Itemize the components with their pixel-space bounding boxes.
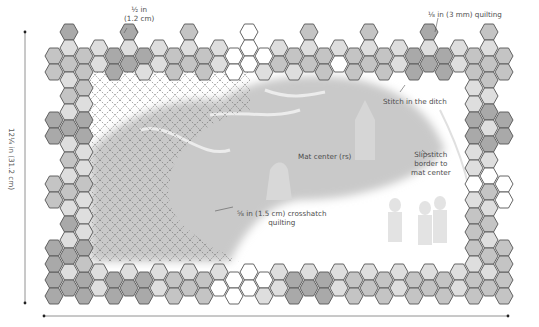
hexagon-patch	[150, 264, 168, 280]
hexagon-patch	[465, 96, 483, 112]
hexagon-patch	[240, 56, 258, 72]
crosshatch-line-2: quilting	[237, 218, 327, 227]
hexagon-patch	[120, 280, 138, 296]
hexagon-patch	[495, 176, 513, 192]
hexagon-patch	[195, 288, 213, 304]
height-dimension-label: 12¼ in (31.2 cm)	[7, 128, 16, 190]
hexagon-patch	[75, 112, 93, 128]
hexagon-patch	[75, 256, 93, 272]
hexagon-patch	[420, 280, 438, 296]
hexagon-patch	[120, 56, 138, 72]
hexagon-patch	[465, 288, 483, 304]
hexagon-patch	[135, 288, 153, 304]
hexagon-patch	[345, 64, 363, 80]
hexagon-patch	[360, 280, 378, 296]
hexagon-patch	[465, 80, 483, 96]
hexagon-patch	[210, 40, 228, 56]
hexagon-patch	[75, 208, 93, 224]
hexagon-patch	[345, 288, 363, 304]
hex-size-inches: ½ in	[124, 5, 154, 14]
hexagon-patch	[330, 264, 348, 280]
hexagon-patch	[360, 264, 378, 280]
hexagon-patch	[285, 48, 303, 64]
hexagon-patch	[330, 280, 348, 296]
hexagon-patch	[75, 192, 93, 208]
hex-size-cm: (1.2 cm)	[124, 14, 154, 23]
hexagon-patch	[465, 128, 483, 144]
hexagon-patch	[165, 272, 183, 288]
hexagon-patch	[450, 40, 468, 56]
hexagon-patch	[255, 288, 273, 304]
hexagon-patch	[360, 40, 378, 56]
hexagon-patch	[60, 232, 78, 248]
hexagon-patch	[225, 64, 243, 80]
hexagon-patch	[480, 168, 498, 184]
hexagon-patch	[240, 280, 258, 296]
hexagon-patch	[165, 288, 183, 304]
hexagon-patch	[480, 264, 498, 280]
hexagon-patch	[465, 192, 483, 208]
hexagon-patch	[300, 56, 318, 72]
hexagon-patch	[375, 288, 393, 304]
hexagon-patch	[45, 128, 63, 144]
hexagon-patch	[225, 48, 243, 64]
hexagon-patch	[60, 104, 78, 120]
hexagon-patch	[60, 184, 78, 200]
hexagon-patch	[255, 272, 273, 288]
hexagon-patch	[390, 56, 408, 72]
hexagon-patch	[480, 72, 498, 88]
hexagon-patch	[60, 56, 78, 72]
hexagon-patch	[285, 64, 303, 80]
hexagon-patch	[495, 272, 513, 288]
hexagon-patch	[390, 280, 408, 296]
hexagon-patch	[210, 56, 228, 72]
hexagon-patch	[465, 256, 483, 272]
hexagon-patch	[90, 56, 108, 72]
hexagon-patch	[270, 280, 288, 296]
hexagon-patch	[105, 288, 123, 304]
hexagon-patch	[315, 64, 333, 80]
hexagon-patch	[210, 280, 228, 296]
hexagon-patch	[75, 64, 93, 80]
hexagon-patch	[180, 40, 198, 56]
hexagon-patch	[315, 272, 333, 288]
hexagon-patch	[405, 64, 423, 80]
hexagon-patch	[60, 280, 78, 296]
hexagon-patch	[465, 64, 483, 80]
hexagon-patch	[45, 240, 63, 256]
hexagon-patch	[135, 272, 153, 288]
hexagon-patch	[45, 112, 63, 128]
hexagon-patch	[300, 24, 318, 40]
hexagon-patch	[60, 264, 78, 280]
hexagon-patch	[480, 248, 498, 264]
hexagon-patch	[45, 192, 63, 208]
quilt-diagram-svg	[0, 0, 539, 327]
hexagon-patch	[240, 264, 258, 280]
hexagon-patch	[75, 160, 93, 176]
hexagon-patch	[105, 48, 123, 64]
hexagon-patch	[390, 40, 408, 56]
hexagon-patch	[390, 264, 408, 280]
hexagon-patch	[270, 56, 288, 72]
hexagon-patch	[75, 224, 93, 240]
stitch-in-ditch-label: Stitch in the ditch	[383, 97, 447, 106]
hexagon-patch	[480, 120, 498, 136]
hexagon-patch	[45, 288, 63, 304]
hexagon-patch	[135, 48, 153, 64]
hexagon-patch	[450, 264, 468, 280]
hexagon-patch	[165, 48, 183, 64]
hexagon-patch	[60, 248, 78, 264]
hexagon-patch	[120, 24, 138, 40]
hexagon-patch	[465, 144, 483, 160]
hexagon-patch	[405, 272, 423, 288]
hexagon-patch	[480, 184, 498, 200]
hexagon-patch	[120, 40, 138, 56]
hexagon-patch	[45, 256, 63, 272]
quilt-diagram: ½ in (1.2 cm) ⅛ in (3 mm) quilting Stitc…	[0, 0, 539, 327]
hexagon-patch	[330, 40, 348, 56]
hexagon-patch	[180, 264, 198, 280]
hexagon-patch	[480, 104, 498, 120]
hexagon-patch	[75, 240, 93, 256]
hexagon-patch	[480, 152, 498, 168]
hexagon-patch	[60, 216, 78, 232]
